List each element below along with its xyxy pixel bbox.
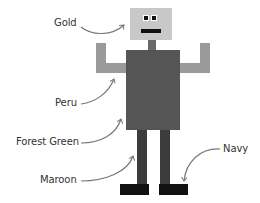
left-leg	[137, 130, 147, 185]
body	[126, 50, 180, 130]
navy-arrow	[184, 149, 220, 181]
maroon-arrow	[81, 156, 133, 181]
right-arm-lower	[179, 63, 210, 73]
right-leg	[160, 130, 170, 185]
gold-arrow	[81, 25, 124, 34]
forest-green-arrow	[81, 119, 121, 143]
label-forest-green: Forest Green	[16, 136, 79, 147]
label-peru: Peru	[55, 97, 77, 108]
label-gold: Gold	[54, 17, 77, 28]
left-pupil	[144, 16, 148, 20]
peru-arrow	[81, 79, 114, 104]
left-foot	[120, 184, 149, 195]
mouth	[141, 29, 161, 33]
right-pupil	[152, 16, 156, 20]
right-foot	[159, 184, 188, 195]
label-maroon: Maroon	[40, 174, 77, 185]
label-navy: Navy	[223, 143, 248, 154]
head	[130, 8, 172, 40]
left-arm-lower	[96, 63, 127, 73]
